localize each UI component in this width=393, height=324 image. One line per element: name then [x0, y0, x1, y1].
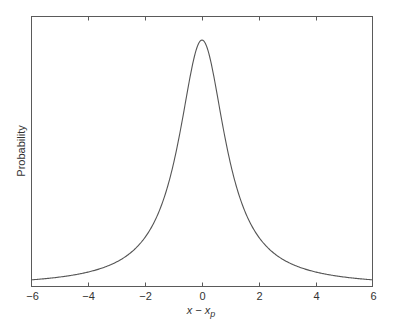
x-tick-label: −4 [82, 290, 95, 302]
x-axis-tick-labels: −6−4−20246 [26, 290, 376, 302]
x-tick-label: 2 [256, 290, 262, 302]
x-tick-label: 4 [313, 290, 319, 302]
plot-area [32, 17, 373, 287]
x-tick-label: −6 [26, 290, 39, 302]
probability-chart: −6−4−20246 x − xp Probability [0, 0, 393, 324]
x-axis-label: x − xp [186, 304, 216, 319]
y-axis-label: Probability [15, 125, 27, 177]
x-tick-label: 6 [370, 290, 376, 302]
probability-curve [32, 40, 373, 280]
x-tick-label: 0 [199, 290, 205, 302]
x-axis-ticks [89, 17, 317, 287]
x-tick-label: −2 [139, 290, 152, 302]
